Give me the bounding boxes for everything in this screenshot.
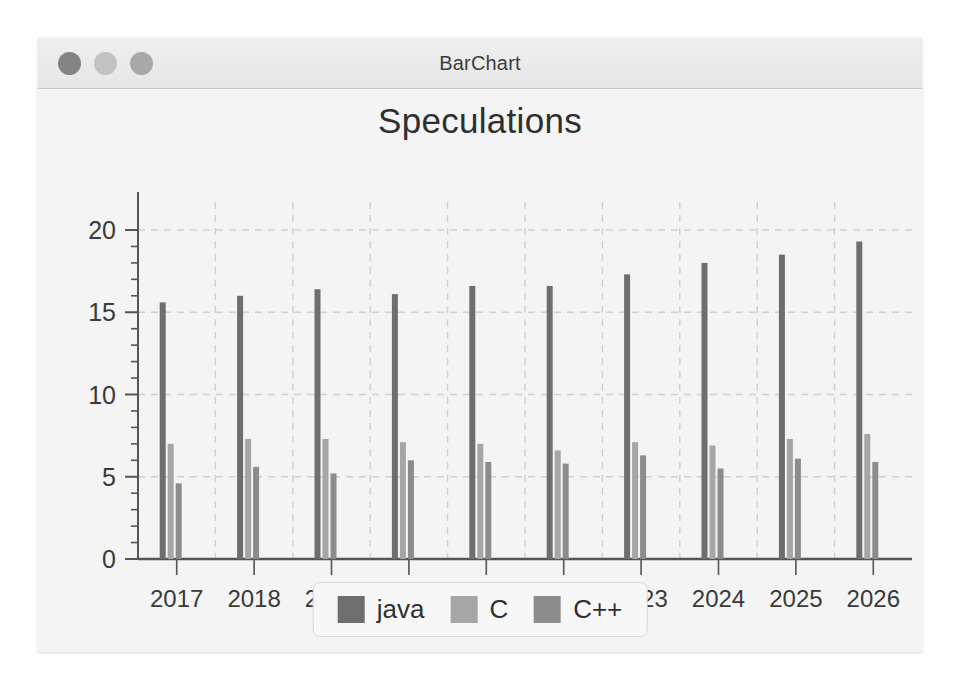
x-tick-label: 2017 [150,585,203,612]
bar-C++-2022 [563,464,569,559]
legend-item-cpp[interactable]: C++ [534,594,622,625]
bar-java-2020 [392,294,398,559]
bar-C++-2017 [176,483,182,559]
bar-java-2017 [160,302,166,559]
bar-C++-2026 [872,462,878,559]
x-tick-label: 2024 [692,585,745,612]
y-tick-label: 20 [88,216,116,244]
legend-item-c[interactable]: C [450,594,508,625]
bar-C-2020 [400,442,406,559]
y-tick-label: 5 [102,463,116,491]
bar-java-2023 [624,274,630,559]
bar-C++-2023 [640,455,646,559]
y-tick-label: 0 [102,545,116,573]
bar-java-2019 [315,289,321,559]
legend-item-java[interactable]: java [338,594,425,625]
bar-C-2017 [168,444,174,559]
bar-C-2025 [787,439,793,559]
legend-label-java: java [377,594,425,625]
bar-C-2018 [245,439,251,559]
bar-C-2023 [632,442,638,559]
bar-C++-2021 [485,462,491,559]
bar-C++-2019 [331,473,337,559]
legend-swatch-java [338,596,365,623]
bar-C++-2025 [795,459,801,559]
y-tick-label: 15 [88,298,116,326]
bar-C-2021 [477,444,483,559]
legend-swatch-c [450,596,477,623]
bar-C-2022 [555,450,561,559]
x-tick-label: 2025 [769,585,822,612]
window-title: BarChart [38,52,922,75]
bar-C-2026 [864,434,870,559]
bar-C-2019 [323,439,329,559]
bar-java-2025 [779,255,785,559]
bar-java-2021 [469,286,475,559]
screen: BarChart Speculations 051015202017201820… [0,0,964,691]
bar-C-2024 [710,445,716,559]
app-window: BarChart Speculations 051015202017201820… [38,38,922,652]
bar-java-2022 [547,286,553,559]
y-tick-label: 10 [88,381,116,409]
window-body: Speculations 051015202017201820192020202… [38,89,922,652]
bar-C++-2020 [408,460,414,559]
chart-legend: java C C++ [313,582,648,637]
legend-label-c: C [489,594,508,625]
x-tick-label: 2026 [847,585,900,612]
legend-label-cpp: C++ [573,594,622,625]
window-titlebar[interactable]: BarChart [38,38,922,89]
bar-java-2024 [702,263,708,559]
bar-C++-2024 [718,469,724,559]
x-tick-label: 2018 [227,585,280,612]
bar-chart: 0510152020172018201920202021202220232024… [38,89,922,652]
legend-swatch-cpp [534,596,561,623]
bar-java-2018 [237,296,243,559]
bar-java-2026 [856,242,862,559]
bar-C++-2018 [253,467,259,559]
chart-canvas: 0510152020172018201920202021202220232024… [38,89,922,652]
